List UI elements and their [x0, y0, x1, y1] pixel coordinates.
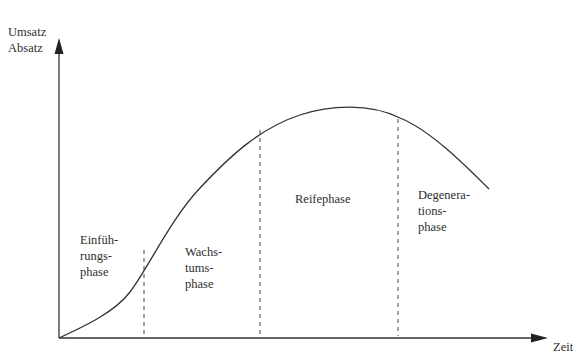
- x-axis-arrowhead-icon: [531, 334, 548, 343]
- phase-label-growth: Wachs- tums- phase: [185, 244, 222, 292]
- phase-label-decline: Degenera- tions- phase: [418, 187, 470, 235]
- y-axis-label-line1: Umsatz: [8, 24, 46, 40]
- phase-label-line: Wachs-: [185, 244, 222, 260]
- phase-label-line: tums-: [185, 260, 222, 276]
- x-axis-label: Zeit: [553, 339, 573, 355]
- phase-label-maturity: Reifephase: [295, 191, 351, 207]
- phase-label-line: phase: [80, 264, 118, 280]
- phase-label-line: phase: [185, 276, 222, 292]
- y-axis-label-line2: Absatz: [8, 40, 46, 56]
- phase-label-line: Reifephase: [295, 191, 351, 207]
- phase-label-line: rungs-: [80, 248, 118, 264]
- phase-label-line: phase: [418, 219, 470, 235]
- phase-label-line: Einfüh-: [80, 232, 118, 248]
- y-axis-arrowhead-icon: [55, 38, 64, 54]
- y-axis-label: Umsatz Absatz: [8, 24, 46, 56]
- phase-label-line: tions-: [418, 203, 470, 219]
- phase-label-introduction: Einfüh- rungs- phase: [80, 232, 118, 280]
- phase-label-line: Degenera-: [418, 187, 470, 203]
